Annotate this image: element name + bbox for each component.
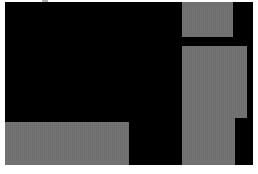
dark-canvas [5, 2, 253, 165]
panel-bottom-left [5, 122, 129, 165]
panel-top-right [182, 2, 233, 37]
footer-caption [5, 166, 253, 174]
panel-right-lower [182, 118, 235, 165]
screen [0, 0, 258, 174]
panel-right-upper [182, 46, 247, 118]
